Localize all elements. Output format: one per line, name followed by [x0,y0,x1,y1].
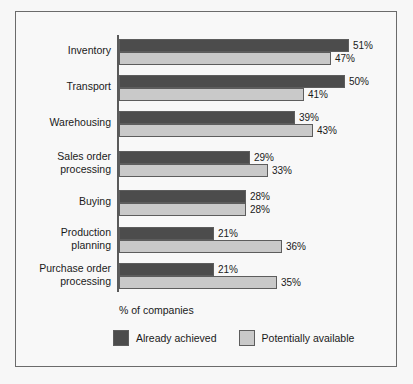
chart-panel: Inventory 51% 47% Transport 50% 41% Ware… [15,11,397,367]
legend-swatch-achieved-icon [113,330,129,346]
bar-value-potential: 35% [281,276,301,289]
category-label: Production planning [0,226,111,251]
bar-value-achieved: 29% [254,151,274,164]
bar-value-achieved: 50% [349,75,369,88]
bar-value-achieved: 28% [250,190,270,203]
bar-value-potential: 47% [335,52,355,65]
screenshot-root: Inventory 51% 47% Transport 50% 41% Ware… [0,0,413,384]
bar-potential [119,88,304,101]
bar-achieved [119,151,250,164]
bar-value-achieved: 21% [218,263,238,276]
bar-value-achieved: 21% [218,227,238,240]
chart-legend: Already achieved Potentially available [113,330,354,346]
bar-value-potential: 36% [286,240,306,253]
bar-potential [119,203,246,216]
legend-entry-potential: Potentially available [239,330,355,346]
bar-value-potential: 33% [272,164,292,177]
bar-value-achieved: 51% [353,39,373,52]
bar-potential [119,240,282,253]
category-label: Purchase order processing [0,262,111,287]
category-label: Transport [0,80,111,93]
x-axis-caption: % of companies [119,304,194,316]
bar-potential [119,164,268,177]
bar-achieved [119,39,349,52]
category-label: Sales order processing [0,150,111,175]
bar-achieved [119,227,214,240]
bar-potential [119,52,331,65]
plot-area: Inventory 51% 47% Transport 50% 41% Ware… [16,12,398,368]
bar-value-potential: 43% [317,124,337,137]
category-label: Buying [0,195,111,208]
legend-label-achieved: Already achieved [136,332,217,344]
category-label: Warehousing [0,116,111,129]
bar-value-potential: 41% [308,88,328,101]
bar-achieved [119,75,345,88]
legend-swatch-potential-icon [239,330,255,346]
bar-achieved [119,111,295,124]
legend-entry-achieved: Already achieved [113,330,217,346]
category-label: Inventory [0,44,111,57]
bar-value-potential: 28% [250,203,270,216]
legend-label-potential: Potentially available [262,332,355,344]
bar-potential [119,124,313,137]
bar-achieved [119,263,214,276]
bar-potential [119,276,277,289]
bar-achieved [119,190,246,203]
bar-value-achieved: 39% [299,111,319,124]
